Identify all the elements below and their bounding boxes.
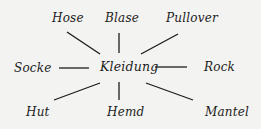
connector-line-hose	[67, 32, 100, 54]
center-word-kleidung: Kleidung	[100, 60, 158, 74]
word-hemd: Hemd	[107, 105, 144, 119]
word-mantel: Mantel	[205, 105, 249, 119]
word-rock: Rock	[204, 60, 235, 74]
word-hose: Hose	[52, 11, 84, 25]
word-pullover: Pullover	[166, 11, 218, 25]
word-socke: Socke	[14, 61, 52, 75]
connector-line-hut	[54, 83, 100, 100]
word-hut: Hut	[26, 105, 50, 119]
word-blase: Blase	[105, 11, 139, 25]
word-web-diagram: Kleidung Hose Blase Pullover Socke Rock …	[0, 0, 261, 129]
connector-line-mantel	[146, 83, 193, 100]
connector-line-pullover	[141, 34, 178, 54]
